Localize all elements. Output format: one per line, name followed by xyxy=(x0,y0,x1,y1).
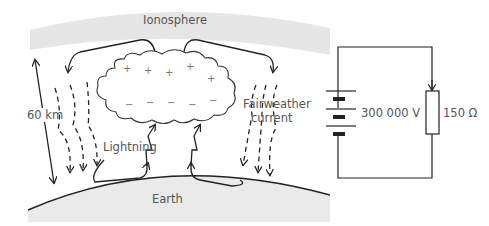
atmospheric-circuit-diagram: Ionosphere Earth 60 km + + + + + − − − −… xyxy=(0,0,489,226)
lightning-label: Lightning xyxy=(103,140,157,154)
svg-text:+: + xyxy=(186,61,194,72)
battery xyxy=(333,97,345,136)
svg-text:−: − xyxy=(167,97,175,108)
fairweather-label-line1: Fairweather xyxy=(243,97,311,111)
svg-text:+: + xyxy=(144,65,152,76)
ionosphere-label: Ionosphere xyxy=(143,13,207,27)
left-fairweather-arrows xyxy=(55,82,97,172)
svg-text:−: − xyxy=(146,97,154,108)
svg-text:−: − xyxy=(125,99,133,110)
svg-text:−: − xyxy=(188,99,196,110)
svg-text:+: + xyxy=(123,63,131,74)
svg-text:+: + xyxy=(207,73,215,84)
svg-text:−: − xyxy=(209,95,217,106)
fairweather-label-line2: current xyxy=(251,111,293,125)
battery-voltage-label: 300 000 V xyxy=(361,106,420,120)
resistor xyxy=(426,91,439,134)
resistor-value-label: 150 Ω xyxy=(443,106,478,120)
svg-text:+: + xyxy=(165,67,173,78)
thundercloud xyxy=(97,50,235,124)
earth-label: Earth xyxy=(152,192,183,206)
height-label: 60 km xyxy=(27,108,63,122)
